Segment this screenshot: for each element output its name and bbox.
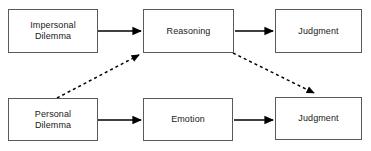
node-label-reasoning: Reasoning xyxy=(165,26,213,37)
edge-personal-to-reasoning-dashed xyxy=(57,55,139,98)
node-label-judgment-bottom: Judgment xyxy=(296,113,340,124)
node-label-judgment-top: Judgment xyxy=(296,26,340,37)
node-impersonal-dilemma: Impersonal Dilemma xyxy=(8,9,98,53)
node-label-personal-dilemma: Personal Dilemma xyxy=(33,109,73,131)
node-personal-dilemma: Personal Dilemma xyxy=(8,98,98,141)
node-label-impersonal-dilemma: Impersonal Dilemma xyxy=(28,20,78,42)
node-judgment-top: Judgment xyxy=(275,9,362,53)
node-judgment-bottom: Judgment xyxy=(275,97,362,140)
node-reasoning: Reasoning xyxy=(143,9,234,53)
diagram-canvas: Impersonal Dilemma Reasoning Judgment Pe… xyxy=(0,0,371,151)
node-label-emotion: Emotion xyxy=(169,114,207,125)
node-emotion: Emotion xyxy=(143,98,233,141)
edge-reasoning-to-judgment-bottom-dashed xyxy=(233,53,314,93)
